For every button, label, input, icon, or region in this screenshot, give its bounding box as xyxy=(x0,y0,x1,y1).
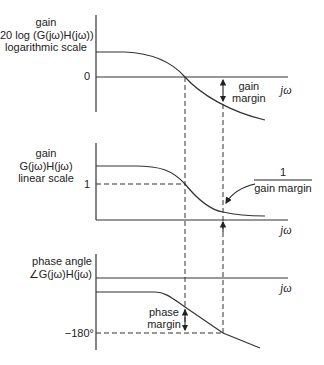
ylabel-line: gain xyxy=(0,16,92,29)
annotation-line: margin xyxy=(232,92,266,104)
log-gain-zero-tick: 0 xyxy=(70,70,90,83)
ylabel-line: logarithmic scale xyxy=(0,41,92,54)
gain-margin-label: gain margin xyxy=(232,80,266,104)
linear-gain-x-label: jω xyxy=(280,224,292,237)
phase-ylabel: phase angle ∠G(jω)H(jω) xyxy=(0,255,92,280)
phase-axes xyxy=(96,254,288,350)
annotation-line: phase xyxy=(146,306,182,318)
one-over-gain-margin-denominator: gain margin xyxy=(252,182,314,195)
linear-gain-curve xyxy=(96,166,265,216)
phase-x-label: jω xyxy=(280,282,292,295)
linear-gain-one-tick: 1 xyxy=(70,178,90,191)
one-over-gain-margin-numerator: 1 xyxy=(254,166,312,179)
annotation-line: margin xyxy=(146,318,182,330)
ylabel-line: gain xyxy=(0,147,92,160)
dashed-guides xyxy=(96,77,223,333)
ylabel-line: ∠G(jω)H(jω) xyxy=(0,268,92,281)
log-gain-x-label: jω xyxy=(280,84,292,97)
bode-diagram: gain 20 log (G(jω)H(jω)) logarithmic sca… xyxy=(0,0,324,365)
phase-minus-180-tick: −180° xyxy=(50,327,94,340)
phase-margin-label: phase margin xyxy=(146,306,182,330)
one-over-gain-margin-pointer xyxy=(226,184,255,203)
ylabel-line: 20 log (G(jω)H(jω)) xyxy=(0,29,92,42)
ylabel-line: G(jω)H(jω) xyxy=(0,160,92,173)
ylabel-line: phase angle xyxy=(0,255,92,268)
annotation-line: gain xyxy=(232,80,266,92)
log-gain-ylabel: gain 20 log (G(jω)H(jω)) logarithmic sca… xyxy=(0,16,92,54)
